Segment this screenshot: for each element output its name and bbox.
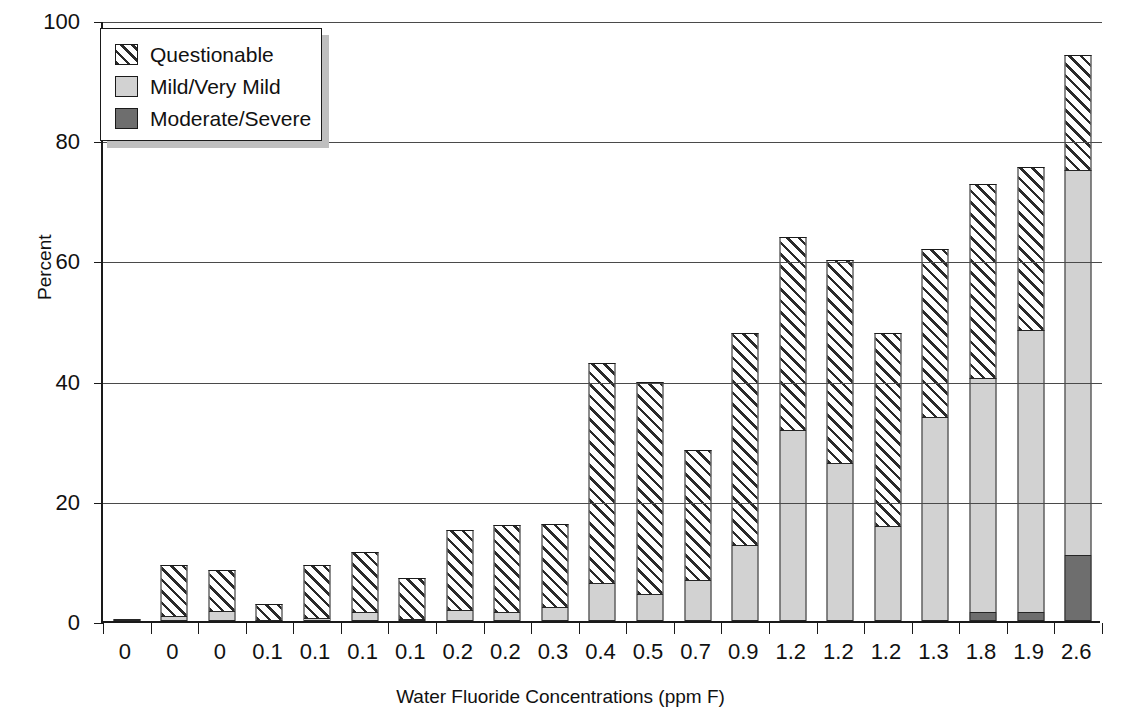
x-axis-tick <box>436 623 437 634</box>
bar-segment-mild <box>684 580 711 621</box>
x-axis-tick <box>864 623 865 634</box>
bar-slot <box>959 20 1007 621</box>
bar-segment-mild <box>304 618 331 621</box>
bar-segment-quest <box>1017 167 1044 329</box>
y-axis-tick-label: 80 <box>20 131 80 153</box>
stacked-bar[interactable] <box>1017 167 1044 621</box>
gridline <box>103 383 1102 384</box>
bar-slot <box>388 20 436 621</box>
stacked-bar[interactable] <box>304 565 331 621</box>
bar-slot <box>912 20 960 621</box>
stacked-bar[interactable] <box>827 260 854 621</box>
stacked-bar[interactable] <box>208 570 235 621</box>
stacked-bar[interactable] <box>589 363 616 621</box>
bar-segment-mild <box>589 583 616 621</box>
stacked-bar[interactable] <box>541 524 568 621</box>
bar-segment-quest <box>779 237 806 430</box>
bar-segment-quest <box>256 604 283 621</box>
light-gray-swatch-icon <box>115 76 138 97</box>
x-axis-tick <box>246 623 247 634</box>
bar-segment-quest <box>541 524 568 607</box>
y-axis-tick-label: 0 <box>20 612 80 634</box>
bar-slot <box>531 20 579 621</box>
stacked-bar[interactable] <box>113 619 140 621</box>
bar-segment-mild <box>446 610 473 621</box>
x-axis-tick <box>151 623 152 634</box>
bar-slot <box>674 20 722 621</box>
legend-label: Questionable <box>150 44 274 65</box>
bar-segment-quest <box>970 184 997 378</box>
bar-segment-mild <box>161 616 188 621</box>
x-axis-tick <box>388 623 389 634</box>
bar-segment-quest <box>684 450 711 580</box>
bar-segment-mild <box>827 463 854 621</box>
bar-segment-mild <box>399 619 426 621</box>
bar-slot <box>626 20 674 621</box>
stacked-bar[interactable] <box>970 184 997 621</box>
stacked-bar[interactable] <box>637 382 664 621</box>
bar-segment-mild <box>779 430 806 621</box>
gridline <box>103 262 1102 263</box>
bar-segment-sev <box>1065 555 1092 621</box>
bar-slot <box>721 20 769 621</box>
bar-segment-mild <box>1065 170 1092 555</box>
stacked-bar[interactable] <box>732 333 759 621</box>
legend-label: Mild/Very Mild <box>150 76 281 97</box>
bar-segment-quest <box>1065 55 1092 170</box>
bar-segment-quest <box>922 249 949 417</box>
bar-segment-sev <box>970 612 997 621</box>
stacked-bar[interactable] <box>446 530 473 621</box>
bar-segment-mild <box>1017 330 1044 612</box>
y-axis-tick-label: 20 <box>20 492 80 514</box>
bar-segment-mild <box>637 594 664 621</box>
bar-segment-mild <box>351 612 378 621</box>
bar-segment-quest <box>304 565 331 618</box>
bar-slot <box>436 20 484 621</box>
legend-item-mild-very-mild: Mild/Very Mild <box>115 70 321 102</box>
y-axis-tick <box>94 623 103 624</box>
x-axis-tick <box>721 623 722 634</box>
y-axis-tick <box>94 503 103 504</box>
bar-segment-quest <box>351 552 378 612</box>
bar-segment-quest <box>446 530 473 610</box>
y-axis-tick <box>94 22 103 23</box>
bar-segment-quest <box>827 260 854 463</box>
bar-slot <box>817 20 865 621</box>
stacked-bar[interactable] <box>494 525 521 621</box>
legend-label: Moderate/Severe <box>150 108 311 129</box>
bar-segment-quest <box>208 570 235 611</box>
x-axis-tick-label: 2.6 <box>1041 640 1111 664</box>
gridline <box>103 503 1102 504</box>
x-axis-tick <box>1102 623 1103 634</box>
y-axis-tick <box>94 383 103 384</box>
stacked-bar[interactable] <box>684 450 711 621</box>
y-axis-tick-label: 100 <box>20 11 80 33</box>
bar-slot <box>579 20 627 621</box>
x-axis-tick <box>1007 623 1008 634</box>
bar-segment-mild <box>494 612 521 621</box>
bar-slot <box>484 20 532 621</box>
stacked-bar[interactable] <box>399 578 426 621</box>
gridline <box>103 22 1102 23</box>
x-axis-tick <box>674 623 675 634</box>
bar-segment-mild <box>874 526 901 621</box>
stacked-bar[interactable] <box>779 237 806 621</box>
chart-figure: 020406080100 0000.10.10.10.10.20.20.30.4… <box>0 0 1121 725</box>
stacked-bar[interactable] <box>161 565 188 621</box>
bar-segment-mild <box>970 378 997 612</box>
bar-segment-mild <box>208 611 235 621</box>
y-axis-tick-label: 40 <box>20 372 80 394</box>
bar-slot <box>341 20 389 621</box>
bar-segment-quest <box>732 333 759 545</box>
x-axis-tick <box>959 623 960 634</box>
bar-slot <box>1007 20 1055 621</box>
stacked-bar[interactable] <box>922 249 949 621</box>
stacked-bar[interactable] <box>351 552 378 621</box>
chart-legend: Questionable Mild/Very Mild Moderate/Sev… <box>100 28 322 141</box>
bar-segment-mild <box>541 607 568 621</box>
bar-segment-sev <box>1017 612 1044 621</box>
stacked-bar[interactable] <box>874 333 901 621</box>
stacked-bar[interactable] <box>256 604 283 621</box>
bar-segment-quest <box>589 363 616 584</box>
stacked-bar[interactable] <box>1065 55 1092 621</box>
